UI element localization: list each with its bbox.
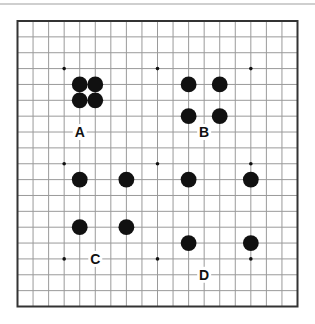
black-stone-group-b [181, 77, 197, 93]
star-point [249, 67, 253, 71]
black-stone-group-a [72, 92, 88, 108]
go-board: ABCD [0, 0, 315, 324]
black-stone-group-a [87, 77, 103, 93]
black-stone-group-d [243, 172, 259, 188]
group-label-b: B [199, 124, 209, 140]
star-point [249, 257, 253, 261]
black-stone-group-c [72, 219, 88, 235]
black-stone-group-c [72, 172, 88, 188]
black-stone-group-c [118, 219, 134, 235]
group-label-a: A [75, 124, 85, 140]
black-stone-group-b [212, 108, 228, 124]
black-stone-group-d [181, 235, 197, 251]
black-stone-group-d [243, 235, 259, 251]
black-stone-group-a [72, 77, 88, 93]
star-point [156, 162, 160, 166]
star-point [62, 162, 66, 166]
star-point [62, 257, 66, 261]
black-stone-group-b [212, 77, 228, 93]
star-point [156, 67, 160, 71]
star-point [249, 162, 253, 166]
group-label-d: D [199, 267, 209, 283]
black-stone-group-a [87, 92, 103, 108]
black-stone-group-d [181, 172, 197, 188]
group-label-c: C [90, 251, 100, 267]
star-point [156, 257, 160, 261]
black-stone-group-b [181, 108, 197, 124]
star-point [62, 67, 66, 71]
black-stone-group-c [118, 172, 134, 188]
